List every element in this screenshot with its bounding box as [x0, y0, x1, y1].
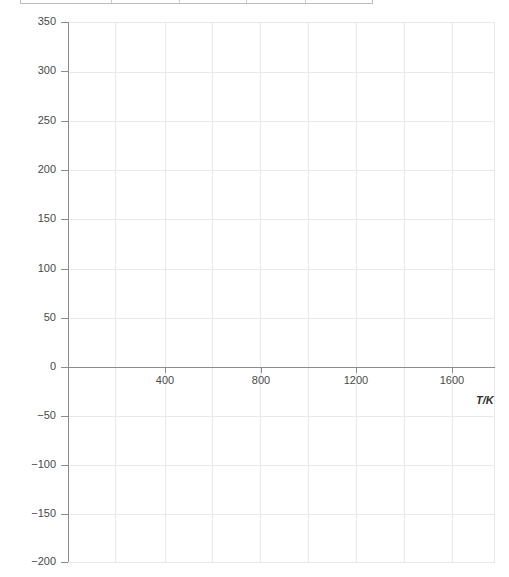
y-tick-mark	[61, 170, 68, 171]
y-tick-mark	[61, 71, 68, 72]
y-tick-label: −100	[16, 458, 56, 470]
y-tick-mark	[61, 269, 68, 270]
y-tick-label: 100	[16, 262, 56, 274]
y-tick-label: 0	[16, 360, 56, 372]
y-tick-mark	[61, 367, 68, 368]
data-series-layer	[68, 22, 495, 562]
y-tick-mark	[61, 514, 68, 515]
x-tick-mark	[165, 367, 166, 373]
ellingham-chart-figure: 350 300 250 200 150 100 50 0 −50 −100 −1…	[0, 0, 509, 577]
y-tick-label: 50	[16, 311, 56, 323]
y-tick-mark	[61, 318, 68, 319]
x-tick-label: 800	[236, 374, 286, 386]
gridline-horizontal	[68, 562, 495, 563]
y-tick-mark	[61, 416, 68, 417]
x-tick-mark	[356, 367, 357, 373]
x-tick-mark	[452, 367, 453, 373]
x-tick-mark	[261, 367, 262, 373]
plot-area	[68, 22, 495, 562]
y-tick-mark	[61, 22, 68, 23]
y-axis-spine	[68, 22, 69, 562]
y-tick-label: −150	[16, 507, 56, 519]
y-tick-mark	[61, 121, 68, 122]
x-tick-label: 400	[140, 374, 190, 386]
y-tick-label: 350	[16, 15, 56, 27]
x-tick-label: 1200	[331, 374, 381, 386]
y-tick-label: −200	[16, 555, 56, 567]
x-axis-title: T/K	[476, 394, 494, 406]
y-tick-mark	[61, 562, 68, 563]
y-tick-mark	[61, 465, 68, 466]
y-tick-label: 200	[16, 163, 56, 175]
x-tick-label: 1600	[427, 374, 477, 386]
y-tick-label: 250	[16, 114, 56, 126]
y-tick-label: 300	[16, 64, 56, 76]
y-tick-label: 150	[16, 212, 56, 224]
x-axis-zero-line	[68, 367, 495, 368]
y-tick-label: −50	[16, 409, 56, 421]
y-tick-mark	[61, 219, 68, 220]
